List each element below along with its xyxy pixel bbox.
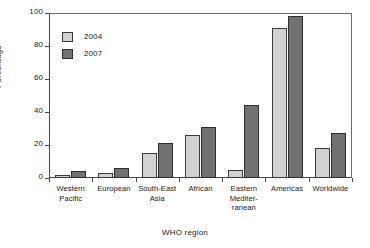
x-tick-mark: [222, 178, 223, 182]
y-tick-label: 60: [34, 73, 43, 82]
bar-2007: [201, 127, 216, 178]
bar-2004: [185, 135, 200, 178]
bar-2007: [158, 143, 173, 178]
y-tick-label: 100: [29, 7, 43, 16]
bar-2004: [315, 148, 330, 178]
bar-group: [136, 13, 179, 178]
x-tick-mark: [49, 178, 50, 182]
y-axis-title: Percentage: [0, 45, 3, 88]
bar-2007: [331, 133, 346, 178]
bar-group: [179, 13, 222, 178]
x-axis-ticks: [49, 178, 352, 182]
bar-2007: [288, 16, 303, 178]
x-axis-label: Worldwide: [303, 184, 358, 194]
bar-2004: [228, 170, 243, 178]
x-axis-label-line: Mediter-: [216, 194, 271, 204]
x-axis-label-line: ranean: [216, 203, 271, 213]
x-axis-label-line: Pacific: [43, 194, 98, 204]
x-tick-mark: [352, 178, 353, 182]
bar-2007: [71, 171, 86, 178]
x-axis-labels: WesternPacificEuropeanSouth-EastAsiaAfri…: [49, 184, 352, 226]
bar-group: [309, 13, 352, 178]
y-tick-label: 40: [34, 106, 43, 115]
bar-group: [222, 13, 265, 178]
x-tick-mark: [265, 178, 266, 182]
bar-2004: [272, 28, 287, 178]
legend-label: 2004: [84, 31, 102, 42]
x-axis-label-line: Asia: [130, 194, 185, 204]
y-tick-label: 80: [34, 40, 43, 49]
bar-chart: Percentage 020406080100 WesternPacificEu…: [0, 0, 370, 248]
legend-label: 2007: [84, 48, 102, 59]
bar-2007: [244, 105, 259, 178]
legend-swatch-2004: [62, 32, 73, 42]
x-tick-mark: [136, 178, 137, 182]
x-tick-mark: [179, 178, 180, 182]
bar-2004: [142, 153, 157, 178]
x-tick-mark: [309, 178, 310, 182]
y-tick-label: 20: [34, 139, 43, 148]
bar-2007: [114, 168, 129, 178]
x-tick-mark: [92, 178, 93, 182]
legend-swatch-2007: [62, 49, 73, 59]
y-tick-label: 0: [38, 172, 43, 181]
bar-group: [265, 13, 308, 178]
x-axis-title: WHO region: [0, 228, 370, 237]
x-axis-label-line: Worldwide: [303, 184, 358, 194]
